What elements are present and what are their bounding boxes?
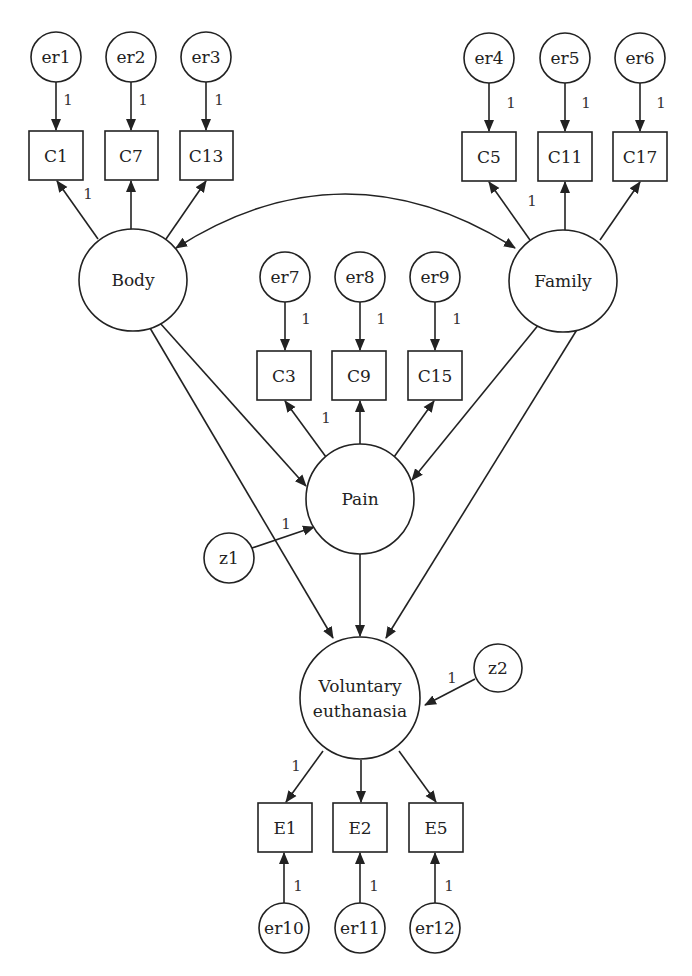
weight-er12-e5: 1 [444, 877, 454, 895]
latent-voluntary-euthanasia: Voluntary euthanasia [300, 637, 420, 759]
error-er1: er1 [31, 32, 81, 82]
svg-text:Pain: Pain [341, 489, 378, 509]
weight-er3-c13: 1 [214, 91, 224, 109]
svg-text:Voluntary: Voluntary [318, 676, 402, 696]
weight-pain-c3: 1 [321, 409, 331, 427]
weight-body-c1: 1 [83, 185, 93, 203]
weight-er1-c1: 1 [63, 91, 73, 109]
disturbance-z2: z2 [474, 644, 522, 692]
svg-text:er11: er11 [340, 918, 380, 938]
svg-text:er2: er2 [116, 47, 145, 67]
svg-text:C11: C11 [548, 147, 583, 167]
path-family-c5 [489, 182, 530, 240]
svg-text:z1: z1 [219, 548, 239, 568]
svg-text:C15: C15 [418, 366, 453, 386]
svg-text:er5: er5 [550, 48, 579, 68]
svg-text:C13: C13 [189, 146, 224, 166]
observed-c9: C9 [332, 351, 386, 400]
error-er9: er9 [410, 252, 460, 302]
observed-c5: C5 [462, 132, 516, 181]
path-body-c13 [166, 181, 206, 239]
path-pain-c3 [285, 401, 326, 457]
error-er5: er5 [540, 33, 590, 83]
svg-text:er1: er1 [41, 47, 70, 67]
weight-ve-e1: 1 [291, 757, 301, 775]
svg-text:C7: C7 [119, 146, 143, 166]
svg-text:er9: er9 [420, 267, 449, 287]
error-er4: er4 [464, 33, 514, 83]
error-er11: er11 [335, 903, 385, 953]
error-er2: er2 [106, 32, 156, 82]
sem-diagram: 1 1 1 1 1 1 1 1 1 1 1 1 1 1 1 1 1 1 er1 … [0, 0, 692, 976]
svg-text:z2: z2 [488, 658, 508, 678]
error-er6: er6 [615, 33, 665, 83]
sem-diagram-svg: 1 1 1 1 1 1 1 1 1 1 1 1 1 1 1 1 1 1 er1 … [0, 0, 692, 976]
path-body-pain [160, 323, 306, 486]
observed-e1: E1 [258, 803, 312, 852]
weight-family-c5: 1 [527, 192, 537, 210]
svg-text:er8: er8 [345, 267, 374, 287]
svg-text:euthanasia: euthanasia [313, 701, 407, 721]
observed-c17: C17 [613, 132, 667, 181]
path-pain-c15 [394, 401, 434, 457]
path-family-pain [412, 323, 540, 480]
svg-text:C3: C3 [272, 366, 296, 386]
svg-text:er12: er12 [415, 918, 455, 938]
svg-text:C1: C1 [44, 146, 68, 166]
svg-text:er3: er3 [191, 47, 220, 67]
svg-text:C9: C9 [347, 366, 371, 386]
disturbance-z1: z1 [204, 533, 254, 583]
observed-c1: C1 [29, 131, 83, 180]
path-family-c17 [600, 182, 640, 240]
latent-family: Family [509, 230, 617, 332]
path-ve-e5 [399, 751, 436, 802]
svg-text:E5: E5 [424, 818, 447, 838]
latent-pain: Pain [306, 444, 414, 554]
svg-text:Family: Family [534, 271, 592, 291]
svg-text:C17: C17 [623, 147, 658, 167]
error-er8: er8 [335, 252, 385, 302]
latent-body: Body [79, 229, 187, 331]
weight-z1-pain: 1 [281, 515, 291, 533]
weight-er9-c15: 1 [452, 310, 462, 328]
observed-c3: C3 [257, 351, 311, 400]
svg-text:E1: E1 [273, 818, 296, 838]
svg-text:er4: er4 [474, 48, 503, 68]
error-er3: er3 [181, 32, 231, 82]
observed-c7: C7 [105, 131, 158, 180]
svg-text:er10: er10 [264, 918, 304, 938]
svg-text:Body: Body [111, 270, 155, 290]
svg-text:E2: E2 [348, 818, 371, 838]
weight-er6-c17: 1 [656, 94, 666, 112]
observed-c11: C11 [538, 132, 592, 181]
weight-er2-c7: 1 [138, 91, 148, 109]
observed-e5: E5 [409, 803, 463, 852]
latent-variables: Body Family Pain Voluntary euthanasia [79, 229, 617, 759]
error-er10: er10 [259, 903, 309, 953]
weight-er5-c11: 1 [581, 94, 591, 112]
covariance-body-family [176, 194, 515, 248]
svg-text:er7: er7 [270, 267, 299, 287]
weight-er4-c5: 1 [506, 94, 516, 112]
error-er12: er12 [410, 903, 460, 953]
error-er7: er7 [260, 252, 310, 302]
svg-text:er6: er6 [625, 48, 654, 68]
weight-er10-e1: 1 [293, 877, 303, 895]
weight-er8-c9: 1 [376, 310, 386, 328]
weight-er7-c3: 1 [301, 310, 311, 328]
weight-z2-ve: 1 [447, 669, 457, 687]
observed-e2: E2 [333, 803, 387, 852]
svg-text:C5: C5 [477, 147, 501, 167]
observed-c13: C13 [180, 131, 233, 180]
weight-er11-e2: 1 [369, 877, 379, 895]
observed-c15: C15 [408, 351, 462, 400]
